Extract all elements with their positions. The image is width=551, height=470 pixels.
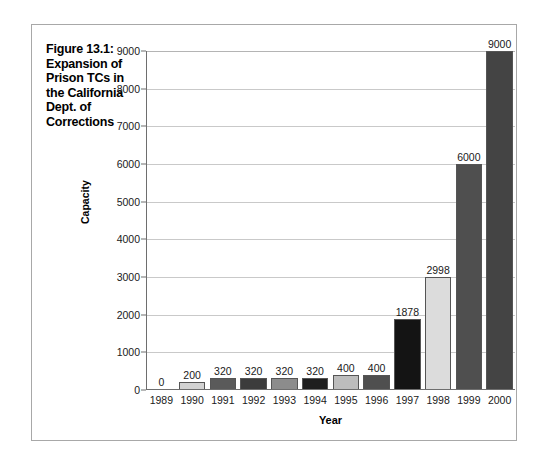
- x-axis-ticks: 1989199019911992199319941995199619971998…: [146, 394, 515, 406]
- y-axis-tick-label: 8000: [117, 83, 140, 95]
- bar-slot: 0: [146, 51, 177, 390]
- y-axis-tick-label: 1000: [117, 346, 140, 358]
- bar-value-label: 320: [306, 365, 324, 377]
- figure-frame: Figure 13.1: Expansion of Prison TCs in …: [31, 24, 517, 441]
- bar-value-label: 320: [245, 365, 263, 377]
- x-axis-tick-label: 1997: [392, 394, 423, 406]
- x-axis-tick-label: 2000: [484, 394, 515, 406]
- x-axis-tick-label: 1993: [269, 394, 300, 406]
- y-axis-tick-label: 9000: [117, 45, 140, 57]
- bar: 320: [240, 378, 266, 390]
- bar-series: 02003203203203204004001878299860009000: [146, 51, 515, 390]
- y-axis-tick-label: 3000: [117, 271, 140, 283]
- bar-value-label: 9000: [488, 38, 511, 50]
- x-axis-title: Year: [146, 414, 515, 426]
- bar-value-label: 2998: [426, 264, 449, 276]
- y-axis-title: Capacity: [79, 180, 91, 224]
- bar: 1878: [394, 319, 420, 390]
- bar-value-label: 400: [368, 362, 386, 374]
- x-axis-tick-label: 1998: [423, 394, 454, 406]
- x-axis-tick-label: 1995: [331, 394, 362, 406]
- bar-slot: 320: [269, 51, 300, 390]
- plot-area: 0100020003000400050006000700080009000 02…: [146, 51, 515, 390]
- x-axis-tick-label: 1991: [208, 394, 239, 406]
- bar-slot: 6000: [454, 51, 485, 390]
- bar: 320: [210, 378, 236, 390]
- bar-slot: 200: [177, 51, 208, 390]
- bar: 320: [302, 378, 328, 390]
- y-axis-tick-label: 2000: [117, 309, 140, 321]
- bar: 6000: [456, 164, 482, 390]
- x-axis-tick-label: 1999: [454, 394, 485, 406]
- bar-slot: 320: [238, 51, 269, 390]
- bar-value-label: 320: [214, 365, 232, 377]
- y-axis-tick-label: 5000: [117, 196, 140, 208]
- y-axis-tick-label: 4000: [117, 233, 140, 245]
- bar: 400: [333, 375, 359, 390]
- bar-value-label: 400: [337, 362, 355, 374]
- bar-slot: 2998: [423, 51, 454, 390]
- bar: 2998: [425, 277, 451, 390]
- bar-slot: 320: [300, 51, 331, 390]
- bar: 200: [179, 382, 205, 390]
- x-axis-tick-label: 1990: [177, 394, 208, 406]
- x-axis-tick-label: 1996: [361, 394, 392, 406]
- bar-value-label: 200: [183, 369, 201, 381]
- bar-slot: 9000: [484, 51, 515, 390]
- bar: 320: [271, 378, 297, 390]
- x-axis-tick-label: 1994: [300, 394, 331, 406]
- x-axis-tick-label: 1989: [146, 394, 177, 406]
- bar-slot: 400: [361, 51, 392, 390]
- y-axis-tick-label: 6000: [117, 158, 140, 170]
- y-axis-tick-label: 0: [134, 384, 140, 396]
- x-axis-tick-label: 1992: [238, 394, 269, 406]
- bar-slot: 1878: [392, 51, 423, 390]
- bar: 400: [363, 375, 389, 390]
- bar-slot: 400: [331, 51, 362, 390]
- bar-value-label: 1878: [396, 306, 419, 318]
- bar-slot: 320: [208, 51, 239, 390]
- bar-value-label: 0: [158, 376, 164, 388]
- bar: 9000: [486, 51, 512, 390]
- bar-value-label: 320: [276, 365, 294, 377]
- bar-value-label: 6000: [457, 151, 480, 163]
- y-axis-tick-label: 7000: [117, 120, 140, 132]
